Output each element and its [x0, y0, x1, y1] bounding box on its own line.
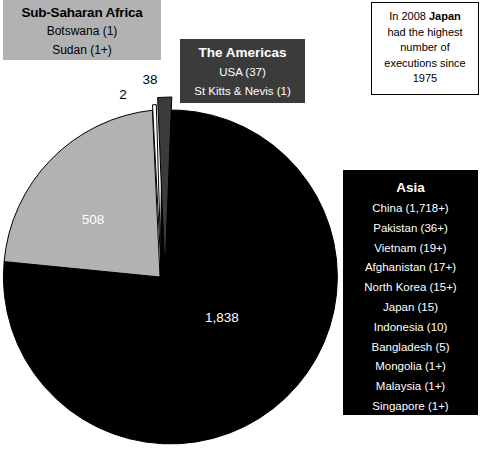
pie-label-2: 2	[119, 87, 127, 102]
legend-row: Pakistan (36+)	[343, 219, 478, 239]
chart-canvas: 1,838 508 38 2 Sub-Saharan Africa Botswa…	[0, 0, 481, 453]
note-prefix: In 2008	[389, 10, 429, 22]
note-bold-word: Japan	[429, 10, 461, 22]
pie-slice-africa[interactable]	[4, 110, 160, 277]
legend-box-the-americas[interactable]: The Americas USA (37) St Kitts & Nevis (…	[180, 39, 305, 103]
callout-note-japan: In 2008 Japan had the highest number of …	[371, 2, 479, 95]
legend-box-asia[interactable]: Asia China (1,718+) Pakistan (36+) Vietn…	[343, 170, 478, 415]
legend-title-asia: Asia	[343, 177, 478, 199]
legend-row: Japan (15)	[343, 298, 478, 318]
pie-chart: 1,838 508 38 2	[0, 60, 340, 453]
note-line-4: executions since	[372, 56, 478, 72]
legend-row: Afghanistan (17+)	[343, 258, 478, 278]
note-line-1: In 2008 Japan	[372, 9, 478, 25]
legend-title-americas: The Americas	[180, 43, 305, 63]
legend-row: Indonesia (10)	[343, 318, 478, 338]
legend-row: Vietnam (19+)	[343, 239, 478, 259]
note-line-2: had the highest	[372, 25, 478, 41]
legend-row: Sudan (1+)	[3, 41, 161, 60]
legend-row: Singapore (1+)	[343, 397, 478, 417]
legend-row: China (1,718+)	[343, 199, 478, 219]
legend-row: Malaysia (1+)	[343, 377, 478, 397]
legend-row: North Korea (15+)	[343, 278, 478, 298]
pie-label-1838: 1,838	[205, 310, 239, 325]
note-line-3: number of	[372, 40, 478, 56]
pie-chart-svg: 1,838 508 38 2	[0, 60, 340, 453]
legend-row: Mongolia (1+)	[343, 357, 478, 377]
pie-label-508: 508	[82, 212, 105, 227]
pie-label-38: 38	[142, 72, 157, 87]
legend-row: USA (37)	[180, 63, 305, 82]
legend-row: Bangladesh (5)	[343, 338, 478, 358]
legend-title-africa: Sub-Saharan Africa	[3, 3, 161, 22]
legend-row: St Kitts & Nevis (1)	[180, 82, 305, 101]
legend-row: Botswana (1)	[3, 22, 161, 41]
note-line-5: 1975	[372, 71, 478, 87]
legend-box-sub-saharan-africa[interactable]: Sub-Saharan Africa Botswana (1) Sudan (1…	[3, 0, 161, 60]
